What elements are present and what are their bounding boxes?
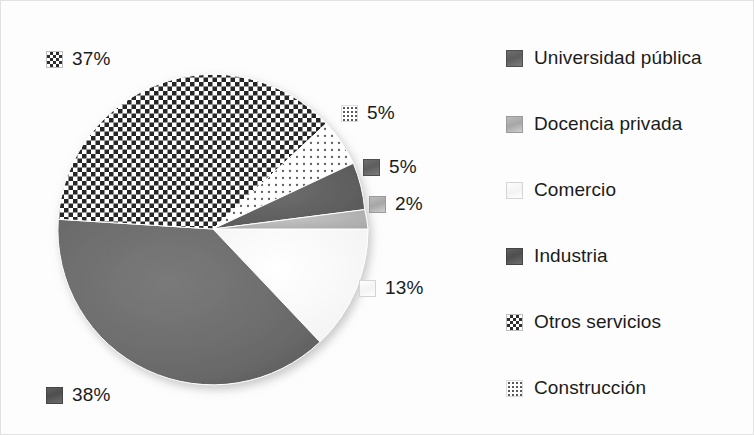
data-label-industria: 38% (46, 384, 111, 406)
pie-slices-group (58, 74, 368, 385)
pie-plot-area: 37% 5% 5% 2% 13% 38% (1, 1, 501, 435)
legend-item-docencia-privada[interactable]: Docencia privada (506, 111, 751, 137)
data-label-comercio: 13% (359, 277, 424, 299)
swatch-mid-icon (369, 196, 386, 213)
legend-item-construccion[interactable]: Construcción (506, 375, 751, 401)
swatch-light-icon (506, 182, 523, 199)
data-label-value: 5% (389, 156, 417, 178)
legend-item-label: Comercio (534, 179, 616, 201)
legend-item-label: Industria (534, 245, 608, 267)
data-label-universidad-publica: 5% (363, 156, 417, 178)
data-label-otros-servicios: 37% (46, 48, 111, 70)
pie-chart-figure: 37% 5% 5% 2% 13% 38% Un (0, 0, 754, 435)
data-label-docencia-privada: 2% (369, 193, 423, 215)
swatch-mid-icon (506, 116, 523, 133)
data-label-value: 37% (72, 48, 111, 70)
swatch-dots-icon (506, 380, 523, 397)
swatch-light-icon (359, 280, 376, 297)
data-label-value: 38% (72, 384, 111, 406)
legend-item-label: Docencia privada (534, 113, 682, 135)
legend-item-industria[interactable]: Industria (506, 243, 751, 269)
swatch-darker-icon (506, 248, 523, 265)
legend-item-label: Construcción (534, 377, 646, 399)
legend-item-label: Otros servicios (534, 311, 661, 333)
legend-item-label: Universidad pública (534, 47, 702, 69)
legend-item-otros-servicios[interactable]: Otros servicios (506, 309, 751, 335)
swatch-checker-icon (506, 314, 523, 331)
data-label-construccion: 5% (341, 102, 395, 124)
data-label-value: 13% (385, 277, 424, 299)
data-label-value: 5% (367, 102, 395, 124)
chart-legend: Universidad pública Docencia privada Com… (506, 45, 751, 401)
swatch-checker-icon (46, 51, 63, 68)
legend-item-universidad-publica[interactable]: Universidad pública (506, 45, 751, 71)
swatch-dark-icon (363, 159, 380, 176)
swatch-dots-icon (341, 105, 358, 122)
swatch-dark-icon (506, 50, 523, 67)
swatch-darker-icon (46, 387, 63, 404)
data-label-value: 2% (395, 193, 423, 215)
legend-item-comercio[interactable]: Comercio (506, 177, 751, 203)
